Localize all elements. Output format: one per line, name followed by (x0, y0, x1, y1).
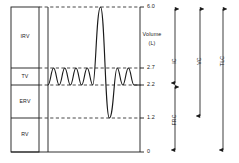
axis-title-volume: Volume (143, 32, 162, 37)
capacity-label-tlc: TLC (220, 56, 225, 66)
volume-label-tv: TV (22, 74, 29, 79)
capacity-label-ic: IC (172, 58, 177, 64)
volume-label-irv: IRV (20, 34, 29, 39)
capacity-label-vc: VC (197, 57, 202, 65)
axis-tick-6-0: 6.0 (147, 4, 155, 9)
axis-tick-2-7: 2.7 (147, 65, 155, 70)
spirogram-trace (48, 7, 140, 118)
axis-tick-0: 0 (147, 149, 150, 154)
axis-tick-2-2: 2.2 (147, 82, 155, 87)
spirogram-svg (0, 0, 239, 163)
volume-box-outline (11, 7, 39, 152)
axis-tick-1-2: 1.2 (147, 115, 155, 120)
reference-lines (39, 7, 140, 118)
axis-title-unit: (L) (148, 41, 155, 46)
volume-label-erv: ERV (19, 99, 30, 104)
volume-label-rv: RV (21, 132, 28, 137)
spirogram-figure: IRV TV ERV RV 6.0 2.7 2.2 1.2 0 Volume (… (0, 0, 239, 163)
capacity-label-frc: FRC (172, 114, 177, 125)
axis-ticks (140, 7, 144, 152)
